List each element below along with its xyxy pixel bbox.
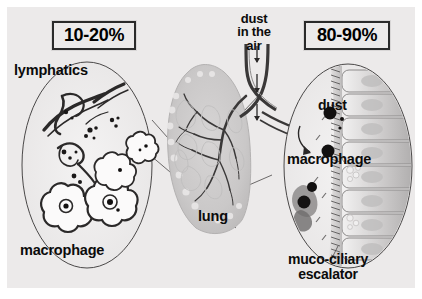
label-lung: lung [198, 209, 228, 224]
label-dust-in-the-air-line-3: air [228, 39, 280, 52]
label-macrophage-left: macrophage [20, 243, 104, 258]
label-dust-in-the-air-line-1: dust [228, 12, 280, 25]
percent-box-right: 80-90% [304, 21, 390, 50]
label-dust-in-the-air-line-2: in the [228, 25, 280, 38]
alveolar-region-detail [22, 62, 159, 268]
label-lymphatics: lymphatics [14, 63, 88, 78]
dust-deposition-figure: 10-20% 80-90% lymphatics macrophage dust… [0, 0, 422, 299]
label-muco-ciliary-escalator-line-2: escalator [276, 267, 380, 282]
trachea-and-airflow [240, 44, 296, 136]
label-dust-in-the-air: dust in the air [228, 12, 280, 52]
airflow-arrow-icon [254, 46, 260, 121]
label-macrophage-right: macrophage [287, 152, 371, 167]
label-muco-ciliary-escalator: muco-ciliary escalator [276, 252, 380, 282]
percent-box-left: 10-20% [52, 21, 136, 50]
label-dust: dust [318, 98, 347, 112]
label-muco-ciliary-escalator-line-1: muco-ciliary [276, 252, 380, 267]
